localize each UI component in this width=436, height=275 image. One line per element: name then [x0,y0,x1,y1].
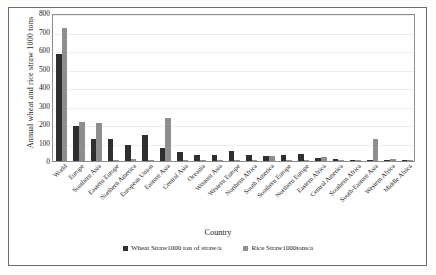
y-axis-tick-label: 700 [39,29,50,36]
bar [62,28,68,161]
legend-swatch-icon [123,246,128,251]
bar-group [70,15,87,161]
y-axis-tick-label: 500 [39,66,50,73]
legend-label: Wheat Straw1000 ton of straw/a [131,244,222,252]
bar-group [53,15,70,161]
legend-item[interactable]: Rice Straw1000tons/a [243,244,313,252]
y-axis-tick-labels: 0100200300400500600700800 [28,14,50,162]
bar-group [191,15,208,161]
y-axis-tick-label: 400 [39,84,50,91]
y-axis-tick-label: 600 [39,47,50,54]
chart-figure: Annual wheat and rice straw 1000 tons 01… [0,0,436,275]
y-axis-tick-label: 800 [39,10,50,17]
y-axis-tick-label: 100 [39,140,50,147]
bar-group [209,15,226,161]
y-axis-tick-label: 0 [46,158,50,165]
legend-label: Rice Straw1000tons/a [251,244,313,252]
legend-swatch-icon [243,246,248,251]
y-axis-tick-label: 300 [39,103,50,110]
chart-legend: Wheat Straw1000 ton of straw/aRice Straw… [0,244,436,252]
x-axis-tick-labels: WorldEuropeSouthern AsiaEastern EuropeNo… [52,163,415,231]
y-axis-tick-label: 200 [39,121,50,128]
bar [79,122,85,161]
legend-item[interactable]: Wheat Straw1000 ton of straw/a [123,244,222,252]
bar-group [88,15,105,161]
x-axis-title: Country [0,228,436,237]
